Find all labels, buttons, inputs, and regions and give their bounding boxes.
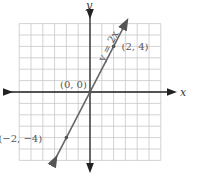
point-label: (−2, −4): [0, 133, 42, 144]
coordinate-plane: x y (2, 4)(0, 0)(−2, −4) y = 2x: [0, 0, 197, 177]
x-axis-label: x: [180, 86, 187, 99]
y-axis-label: y: [85, 0, 93, 12]
point-label: (0, 0): [60, 79, 87, 90]
point-marker: [88, 90, 92, 94]
point-marker: [65, 136, 69, 140]
point-label: (2, 4): [122, 41, 149, 52]
